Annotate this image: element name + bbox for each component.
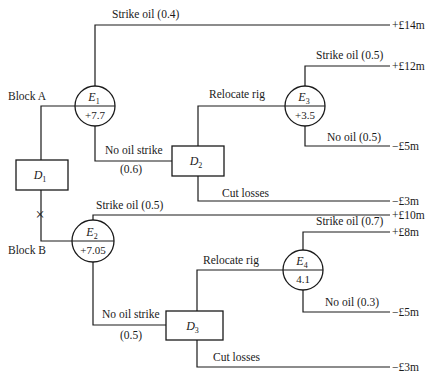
decision-node-d2: D2 <box>172 146 224 176</box>
tree-edge <box>41 106 75 160</box>
branch-label-e4-nooil: No oil (0.3) <box>325 296 379 309</box>
outcome-d2-cut: −£3m <box>392 195 419 207</box>
chance-node-e2: E2+7.05 <box>72 220 114 262</box>
outcome-e1-strike: +£14m <box>392 19 425 31</box>
decision-node-d1: D1 <box>16 160 68 190</box>
tree-edge <box>303 232 390 250</box>
tree-edge <box>305 66 390 86</box>
outcome-e4-nooil: −£5m <box>392 306 419 318</box>
expected-value: +7.7 <box>85 109 105 121</box>
outcome-e3-strike: +£12m <box>392 60 425 72</box>
branch-label-d3-relocate: Relocate rig <box>203 254 259 267</box>
branch-label-e3-nooil: No oil (0.5) <box>327 131 381 144</box>
branch-label-block-b: Block B <box>8 244 46 256</box>
branch-label-block-a: Block A <box>8 90 47 102</box>
expected-value: +7.05 <box>80 244 106 256</box>
branch-label-e2-nostrike-p: (0.5) <box>120 329 142 342</box>
chance-node-e3: E3+3.5 <box>285 86 325 126</box>
branch-label-e3-strike: Strike oil (0.5) <box>316 49 384 62</box>
outcome-e2-strike: +£10m <box>392 209 425 221</box>
branch-label-d2-cut: Cut losses <box>222 187 269 199</box>
expected-value: 4.1 <box>296 273 310 285</box>
tree-edge <box>197 270 283 311</box>
tree-edge <box>41 190 72 241</box>
branch-label-e1-nostrike-p: (0.6) <box>120 163 142 176</box>
outcome-e3-nooil: −£5m <box>392 140 419 152</box>
branch-label-d3-cut: Cut losses <box>213 351 260 363</box>
outcome-e4-strike: +£8m <box>392 226 419 238</box>
branch-label-d2-relocate: Relocate rig <box>209 88 265 101</box>
branch-label-e1-strike: Strike oil (0.4) <box>112 8 180 21</box>
outcome-d3-cut: −£3m <box>392 361 419 373</box>
outcome-values: +£14m+£12m−£5m−£3m+£10m+£8m−£5m−£3m <box>392 19 425 373</box>
branch-label-e2-nostrike: No oil strike <box>102 308 160 320</box>
expected-value: +3.5 <box>295 109 315 121</box>
chance-node-e1: E1+7.7 <box>75 86 115 126</box>
rejected-branch-x-icon: × <box>35 206 44 223</box>
decision-node-d3: D3 <box>166 311 223 340</box>
decision-tree-diagram: D1D2D3 E1+7.7E2+7.05E3+3.5E44.1 Block AB… <box>0 0 437 385</box>
decision-tree-svg: D1D2D3 E1+7.7E2+7.05E3+3.5E44.1 Block AB… <box>0 0 437 385</box>
chance-node-e4: E44.1 <box>283 250 323 290</box>
tree-edge <box>198 106 285 146</box>
branch-label-e2-strike: Strike oil (0.5) <box>96 199 164 212</box>
branch-label-e1-nostrike: No oil strike <box>105 144 163 156</box>
branch-label-e4-strike: Strike oil (0.7) <box>316 215 384 228</box>
